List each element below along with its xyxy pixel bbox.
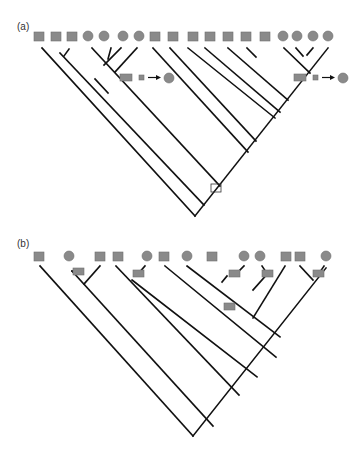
- transition-annotation-left: [120, 73, 174, 83]
- panel-b-branches: [40, 266, 326, 436]
- small-square-icon: [139, 75, 144, 80]
- tip-circle-icon: [321, 251, 331, 261]
- panel-a-label: (a): [17, 21, 29, 32]
- tip-circle-icon: [182, 251, 192, 261]
- tip-square-icon: [260, 32, 270, 41]
- tip-circle-icon: [292, 31, 302, 41]
- branch-state-marker-icon: [120, 74, 132, 81]
- tip-square-icon: [34, 252, 44, 261]
- tip-square-icon: [207, 252, 217, 261]
- result-circle-icon: [338, 73, 348, 83]
- tip-circle-icon: [64, 251, 74, 261]
- tip-square-icon: [223, 32, 233, 41]
- tip-circle-icon: [255, 251, 265, 261]
- tip-circle-icon: [99, 31, 109, 41]
- branch-state-marker-icon: [229, 270, 240, 277]
- panel-a-tips: [34, 31, 333, 41]
- tip-square-icon: [295, 252, 305, 261]
- tip-square-icon: [95, 252, 105, 261]
- tip-square-icon: [34, 32, 44, 41]
- tip-circle-icon: [142, 251, 152, 261]
- tip-circle-icon: [118, 31, 128, 41]
- branch-state-marker-icon: [294, 74, 306, 81]
- tip-circle-icon: [278, 31, 288, 41]
- small-square-icon: [313, 75, 318, 80]
- tip-circle-icon: [239, 251, 249, 261]
- branch-state-marker-icon: [73, 268, 84, 275]
- tip-square-icon: [113, 252, 123, 261]
- tip-circle-icon: [308, 31, 318, 41]
- tip-circle-icon: [134, 31, 144, 41]
- tip-square-icon: [168, 32, 178, 41]
- branch-state-marker-icon: [133, 270, 144, 277]
- panel-a-branches: [42, 48, 328, 216]
- tip-square-icon: [159, 252, 169, 261]
- branch-state-marker-icon: [262, 270, 273, 277]
- result-circle-icon: [164, 73, 174, 83]
- tip-square-icon: [281, 252, 291, 261]
- panel-b-tips: [34, 251, 331, 261]
- tip-circle-icon: [83, 31, 93, 41]
- tip-square-icon: [51, 32, 61, 41]
- tip-square-icon: [67, 32, 77, 41]
- panel-b-label: (b): [17, 238, 29, 249]
- panel-a: (a): [17, 21, 348, 216]
- tip-square-icon: [188, 32, 198, 41]
- tip-square-icon: [150, 32, 160, 41]
- branch-state-marker-icon: [224, 303, 235, 310]
- panel-b: (b): [17, 238, 331, 436]
- tip-square-icon: [241, 32, 251, 41]
- phylogeny-figure: (a): [0, 0, 364, 449]
- branch-state-marker-icon: [313, 270, 324, 277]
- tip-circle-icon: [323, 31, 333, 41]
- tip-square-icon: [205, 32, 215, 41]
